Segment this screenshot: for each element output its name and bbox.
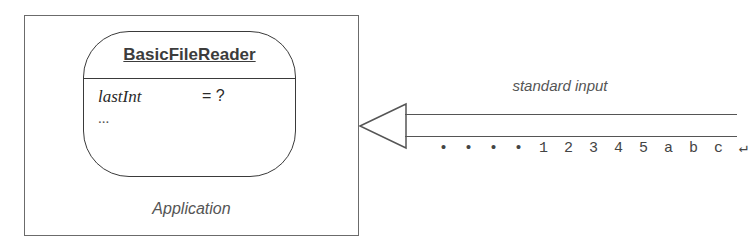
stream-char: 3 <box>581 137 606 160</box>
application-label: Application <box>24 200 359 218</box>
stream-char: 2 <box>556 137 581 160</box>
stream-char: • <box>506 137 531 160</box>
stream-char: • <box>431 137 456 160</box>
stream-char: b <box>681 137 706 160</box>
field-ellipsis: ... <box>98 110 109 127</box>
stream-char: • <box>481 137 506 160</box>
field-value-lastint: = ? <box>202 87 225 105</box>
stream-label: standard input <box>470 77 650 94</box>
return-icon: ↵ <box>731 137 753 160</box>
object-divider <box>84 78 295 79</box>
field-name-lastint: lastInt <box>98 87 141 107</box>
stream-char: 1 <box>531 137 556 160</box>
stream-char: a <box>656 137 681 160</box>
stream-char: • <box>456 137 481 160</box>
arrowhead-icon <box>355 100 410 155</box>
stream-char: c <box>706 137 731 160</box>
stream-char: 5 <box>631 137 656 160</box>
stream-characters: ••••12345abc↵ <box>405 114 753 137</box>
object-class-name: BasicFileReader <box>84 45 295 65</box>
object-box-basicfilereader: BasicFileReader lastInt = ? ... <box>83 31 296 177</box>
stream-char: 4 <box>606 137 631 160</box>
